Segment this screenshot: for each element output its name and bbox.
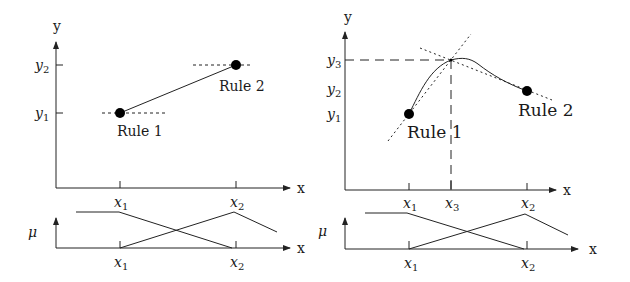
fuzzy-rule-interpolation-diagram: y x y2 y1 x1 x2 Rule 1 Rule 2 μ x x1 x2: [0, 0, 630, 282]
rule1-point: [115, 108, 125, 118]
right-y1-label: y1: [326, 106, 341, 124]
left-main-plot: y x y2 y1 x1 x2 Rule 1 Rule 2: [34, 18, 305, 212]
rule2-point: [231, 60, 241, 70]
right-membership-rule2: [409, 214, 568, 249]
right-mu-x-axis-label: x: [589, 241, 597, 257]
right-rule1-point: [404, 109, 414, 119]
left-y2-label: y2: [34, 57, 49, 75]
right-y-axis-label: y: [343, 9, 352, 25]
x3-y3-point: [450, 59, 453, 62]
rule2-tangent-line: [420, 48, 552, 100]
left-membership-rule1: [76, 212, 232, 248]
left-x-axis-label: x: [297, 180, 305, 196]
right-x1-label: x1: [403, 195, 417, 213]
right-main-plot: y x y3 y2 y1 x1 x3 x2 Rule 1 Rule 2: [326, 9, 573, 213]
right-x-axis-label: x: [563, 182, 571, 198]
right-mu-x2-label: x2: [521, 255, 535, 273]
left-mu-x1-label: x1: [114, 254, 128, 272]
rule2-label: Rule 2: [219, 78, 265, 94]
right-mu-label: μ: [318, 223, 327, 239]
right-x2-label: x2: [521, 195, 535, 213]
right-x3-label: x3: [445, 195, 459, 213]
right-mu-x1-label: x1: [404, 255, 418, 273]
right-membership-plot: μ x x1 x2: [318, 213, 597, 273]
left-y-axis-label: y: [52, 18, 61, 34]
right-rule1-label: Rule 1: [407, 122, 462, 142]
left-membership-rule2: [120, 212, 277, 248]
left-x2-label: x2: [230, 194, 244, 212]
rule1-label: Rule 1: [117, 123, 163, 139]
right-rule2-label: Rule 2: [518, 100, 573, 120]
right-y3-label: y3: [326, 52, 341, 70]
right-membership-rule1: [365, 213, 524, 249]
left-membership-plot: μ x x1 x2: [28, 212, 305, 272]
left-y1-label: y1: [34, 105, 49, 123]
right-y2-label: y2: [326, 81, 341, 99]
left-mu-x-axis-label: x: [297, 240, 305, 256]
right-rule2-point: [522, 86, 532, 96]
left-mu-label: μ: [28, 224, 37, 240]
left-mu-x2-label: x2: [230, 254, 244, 272]
left-x1-label: x1: [114, 194, 128, 212]
